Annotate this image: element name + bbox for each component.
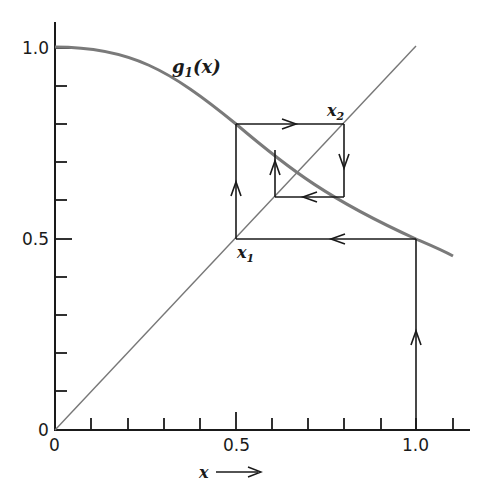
x2-label: x2 — [326, 101, 345, 123]
x-label-05: 0.5 — [223, 435, 250, 455]
cobweb-chart: 1.0 0.5 0 0 0.5 1.0 x — [0, 0, 493, 499]
x1-label: x1 — [236, 243, 254, 265]
y-label-05: 0.5 — [22, 229, 49, 249]
x-ticks — [91, 412, 453, 430]
x-label-0: 0 — [49, 435, 60, 455]
y-ticks — [55, 48, 72, 391]
y-label-1: 1.0 — [22, 38, 49, 58]
g1-label: g1(x) — [172, 56, 221, 80]
y-label-0: 0 — [38, 420, 49, 440]
x-axis-name: x — [198, 463, 209, 482]
cobweb-path — [231, 119, 421, 430]
x-label-1: 1.0 — [402, 435, 429, 455]
g1-curve — [55, 47, 453, 256]
